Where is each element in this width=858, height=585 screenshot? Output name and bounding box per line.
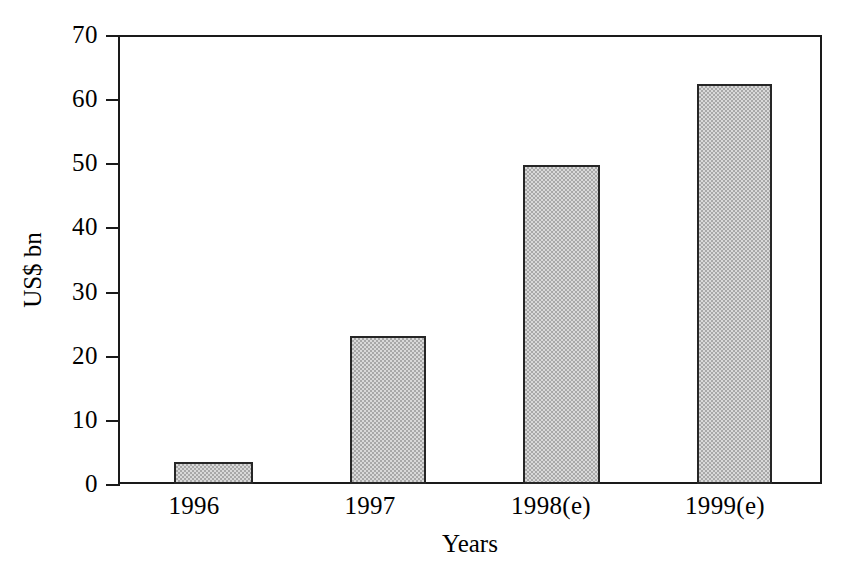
y-axis-title: US$ bn	[19, 190, 47, 350]
bar-1998e	[523, 165, 600, 484]
x-tick-label-1996: 1996	[134, 492, 254, 520]
bar-1996	[174, 462, 253, 484]
bar-1997	[350, 336, 426, 484]
y-tick-label-0: 0	[36, 471, 98, 496]
y-tick-label-70: 70	[36, 22, 98, 47]
y-tick-mark-40	[106, 227, 120, 229]
x-tick-label-1999e: 1999(e)	[655, 492, 795, 520]
y-tick-label-10: 10	[36, 407, 98, 432]
x-tick-label-1997: 1997	[310, 492, 430, 520]
bar-1999e	[697, 84, 772, 484]
y-tick-mark-20	[106, 356, 120, 358]
y-tick-mark-0	[106, 484, 120, 486]
y-tick-mark-30	[106, 292, 120, 294]
y-tick-label-60: 60	[36, 86, 98, 111]
x-tick-label-1998e: 1998(e)	[481, 492, 621, 520]
y-tick-mark-70	[106, 35, 120, 37]
bar-chart: 70 60 50 40 30 20 10 0 1996 1997 1998(e)…	[0, 0, 858, 585]
y-tick-label-50: 50	[36, 150, 98, 175]
y-tick-mark-50	[106, 163, 120, 165]
bars-layer	[118, 35, 822, 484]
y-tick-mark-60	[106, 99, 120, 101]
y-tick-mark-10	[106, 420, 120, 422]
x-axis-title: Years	[118, 530, 822, 558]
